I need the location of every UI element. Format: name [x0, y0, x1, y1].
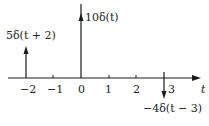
tick-label: −1	[47, 83, 63, 96]
impulse-label: 5δ(t + 2)	[6, 29, 56, 42]
impulse-label: 10δ(t)	[85, 11, 119, 24]
impulse-diagram: −2 −1 0 1 2 3 t 5δ(t + 2) 10δ(t) −4δ(t −…	[0, 0, 209, 126]
tick-label: −2	[20, 83, 36, 96]
axis-label: t	[201, 83, 206, 96]
axis-arrowhead-icon	[192, 75, 201, 81]
arrow-down-icon	[162, 91, 167, 99]
tick-label: 0	[78, 83, 85, 96]
tick-label: 3	[168, 83, 175, 96]
arrow-up-icon	[79, 13, 84, 21]
impulse-label: −4δ(t − 3)	[143, 102, 202, 115]
tick-label: 2	[133, 83, 140, 96]
arrow-up-icon	[24, 46, 29, 54]
tick-label: 1	[105, 83, 112, 96]
